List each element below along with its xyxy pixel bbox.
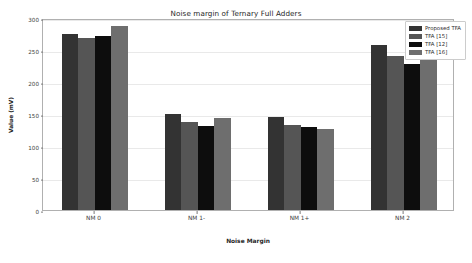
x-tick-label: NM 1- bbox=[188, 215, 205, 221]
legend-item[interactable]: TFA [15] bbox=[409, 33, 461, 41]
y-tick-label: 200 bbox=[28, 81, 39, 87]
bar-group bbox=[165, 20, 231, 210]
x-axis-label: Noise Margin bbox=[42, 238, 454, 244]
bar bbox=[78, 38, 95, 210]
bar bbox=[214, 118, 231, 210]
bar-chart-figure: Noise margin of Ternary Full Adders 0501… bbox=[0, 0, 472, 263]
bar bbox=[111, 26, 128, 210]
x-axis-ticks: NM 0NM 1-NM 1+NM 2 bbox=[42, 211, 454, 231]
bars-layer bbox=[43, 20, 453, 210]
bar bbox=[387, 56, 404, 210]
legend-swatch bbox=[409, 34, 422, 39]
bar bbox=[420, 59, 437, 210]
legend-swatch bbox=[409, 42, 422, 47]
bar bbox=[165, 114, 182, 210]
legend-label: Proposed TFA bbox=[425, 26, 461, 31]
bar bbox=[62, 34, 79, 210]
bar bbox=[268, 117, 285, 210]
chart-title: Noise margin of Ternary Full Adders bbox=[0, 9, 472, 18]
bar-group bbox=[62, 20, 128, 210]
x-tick-label: NM 0 bbox=[86, 215, 101, 221]
y-tick-label: 250 bbox=[28, 49, 39, 55]
bar bbox=[198, 126, 215, 210]
legend-label: TFA [15] bbox=[425, 34, 447, 39]
x-tick-label: NM 1+ bbox=[290, 215, 310, 221]
legend-label: TFA [16] bbox=[425, 50, 447, 55]
y-tick-label: 100 bbox=[28, 145, 39, 151]
legend-swatch bbox=[409, 26, 422, 31]
y-tick-label: 50 bbox=[32, 177, 39, 183]
legend-item[interactable]: TFA [16] bbox=[409, 49, 461, 57]
y-tick-label: 300 bbox=[28, 17, 39, 23]
bar bbox=[301, 127, 318, 210]
x-tick-mark bbox=[93, 211, 94, 214]
x-tick-mark bbox=[299, 211, 300, 214]
bar bbox=[404, 64, 421, 210]
legend: Proposed TFATFA [15]TFA [12]TFA [16] bbox=[405, 21, 466, 60]
bar bbox=[371, 45, 388, 210]
y-tick-label: 150 bbox=[28, 113, 39, 119]
bar bbox=[181, 122, 198, 210]
legend-label: TFA [12] bbox=[425, 42, 447, 47]
plot-area: 050100150200250300 bbox=[42, 19, 454, 211]
legend-item[interactable]: Proposed TFA bbox=[409, 25, 461, 33]
bar bbox=[317, 129, 334, 210]
bar bbox=[284, 125, 301, 210]
y-axis-label: Value (mV) bbox=[8, 97, 14, 133]
bar-group bbox=[268, 20, 334, 210]
x-tick-mark bbox=[196, 211, 197, 214]
legend-swatch bbox=[409, 50, 422, 55]
x-tick-mark bbox=[402, 211, 403, 214]
legend-item[interactable]: TFA [12] bbox=[409, 41, 461, 49]
bar bbox=[95, 36, 112, 210]
x-tick-label: NM 2 bbox=[395, 215, 410, 221]
y-tick-label: 0 bbox=[35, 209, 39, 215]
